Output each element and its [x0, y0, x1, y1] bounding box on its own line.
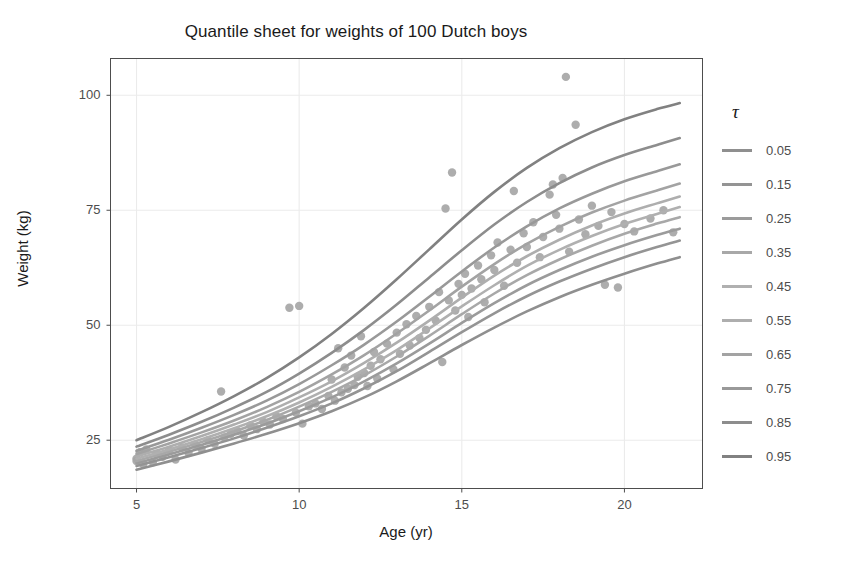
legend-item[interactable]: 0.15	[722, 167, 842, 201]
x-axis-label: Age (yr)	[110, 523, 702, 540]
legend-item-label: 0.25	[766, 212, 791, 225]
x-tick-label: 10	[279, 497, 319, 512]
y-tick-label: 100	[57, 87, 101, 102]
plot-canvas	[0, 0, 846, 565]
legend: τ 0.050.150.250.350.450.550.650.750.850.…	[722, 102, 842, 473]
legend-key-line-icon	[722, 217, 752, 220]
y-tick-label: 50	[57, 317, 101, 332]
legend-item-label: 0.85	[766, 416, 791, 429]
legend-item[interactable]: 0.75	[722, 371, 842, 405]
legend-key-line-icon	[722, 455, 752, 458]
legend-item[interactable]: 0.25	[722, 201, 842, 235]
x-tick-label: 20	[604, 497, 644, 512]
x-tick-label: 15	[442, 497, 482, 512]
y-tick-label: 25	[57, 432, 101, 447]
legend-item-label: 0.65	[766, 348, 791, 361]
legend-item[interactable]: 0.85	[722, 405, 842, 439]
legend-key-line-icon	[722, 251, 752, 254]
y-axis-label: Weight (kg)	[14, 169, 31, 329]
quantile-curves	[137, 103, 680, 470]
legend-item[interactable]: 0.45	[722, 269, 842, 303]
x-tick-label: 5	[117, 497, 157, 512]
legend-item-label: 0.35	[766, 246, 791, 259]
legend-item-label: 0.55	[766, 314, 791, 327]
legend-item-label: 0.75	[766, 382, 791, 395]
legend-item-label: 0.05	[766, 144, 791, 157]
legend-key-line-icon	[722, 183, 752, 186]
legend-key-line-icon	[722, 285, 752, 288]
chart-figure: Quantile sheet for weights of 100 Dutch …	[0, 0, 846, 565]
legend-title: τ	[732, 102, 842, 121]
legend-item[interactable]: 0.05	[722, 133, 842, 167]
legend-key-line-icon	[722, 319, 752, 322]
legend-key-line-icon	[722, 387, 752, 390]
legend-item[interactable]: 0.95	[722, 439, 842, 473]
y-tick-label: 75	[57, 202, 101, 217]
legend-key-line-icon	[722, 421, 752, 424]
legend-item-label: 0.15	[766, 178, 791, 191]
legend-key-line-icon	[722, 149, 752, 152]
legend-item-label: 0.95	[766, 450, 791, 463]
legend-key-line-icon	[722, 353, 752, 356]
legend-item[interactable]: 0.65	[722, 337, 842, 371]
legend-item[interactable]: 0.35	[722, 235, 842, 269]
legend-item[interactable]: 0.55	[722, 303, 842, 337]
legend-entries: 0.050.150.250.350.450.550.650.750.850.95	[722, 133, 842, 473]
legend-item-label: 0.45	[766, 280, 791, 293]
